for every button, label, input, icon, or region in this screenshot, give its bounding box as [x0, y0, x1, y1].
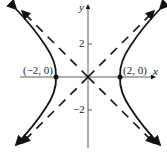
vertex-right [118, 75, 123, 80]
vertex-left-label: (−2, 0) [23, 65, 53, 76]
vertex-right-label: (2, 0) [123, 65, 147, 76]
tick-label-2: 2 [79, 38, 85, 49]
vertex-left [54, 75, 59, 80]
x-axis-label: x [153, 66, 158, 77]
hyperbola-plot [0, 0, 167, 153]
y-axis-label: y [79, 2, 84, 13]
tick-label-neg2: −2 [73, 104, 85, 115]
